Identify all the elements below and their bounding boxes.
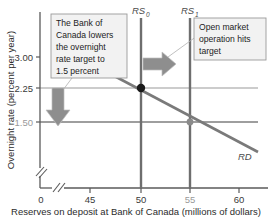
y-tick-label-1-50: 1.50: [15, 117, 34, 128]
overnight-rate-chart: 3.00 2.25 1.50 0 45 50 55 60 Reserves on…: [0, 0, 272, 219]
x-tick-label-50: 50: [136, 194, 147, 205]
y-tick-label-2-25: 2.25: [15, 83, 34, 94]
open-market-callout: Open market operation hits target: [194, 18, 266, 60]
open-market-callout-line-1: Open market: [199, 22, 249, 32]
rate-callout-line-1: The Bank of: [56, 18, 103, 28]
x-tick-label-60: 60: [234, 194, 245, 205]
rate-callout-line-3: the overnight: [56, 42, 106, 52]
open-market-callout-line-3: target: [199, 46, 222, 56]
svg-text:RS: RS: [181, 5, 195, 16]
rd-label: RD: [238, 151, 252, 162]
initial-equilibrium-point: [137, 84, 145, 92]
x-tick-label-55: 55: [185, 194, 196, 205]
x-tick-label-0: 0: [38, 194, 43, 205]
y-tick-label-3-00: 3.00: [15, 52, 34, 63]
open-market-callout-line-2: operation hits: [199, 34, 251, 44]
svg-text:0: 0: [146, 11, 150, 18]
new-equilibrium-point: [187, 119, 194, 126]
rate-callout-line-2: Canada lowers: [56, 30, 113, 40]
rate-callout-line-5: 1.5 percent: [56, 66, 100, 76]
y-axis-title: Overnight rate (percent per year): [5, 31, 16, 169]
svg-text:1: 1: [195, 11, 199, 18]
rate-callout-line-4: rate target to: [56, 54, 105, 64]
rate-target-callout: The Bank of Canada lowers the overnight …: [51, 14, 127, 78]
x-tick-label-45: 45: [85, 194, 96, 205]
x-axis-title: Reserves on deposit at Bank of Canada (m…: [11, 206, 261, 217]
svg-text:RS: RS: [132, 5, 146, 16]
